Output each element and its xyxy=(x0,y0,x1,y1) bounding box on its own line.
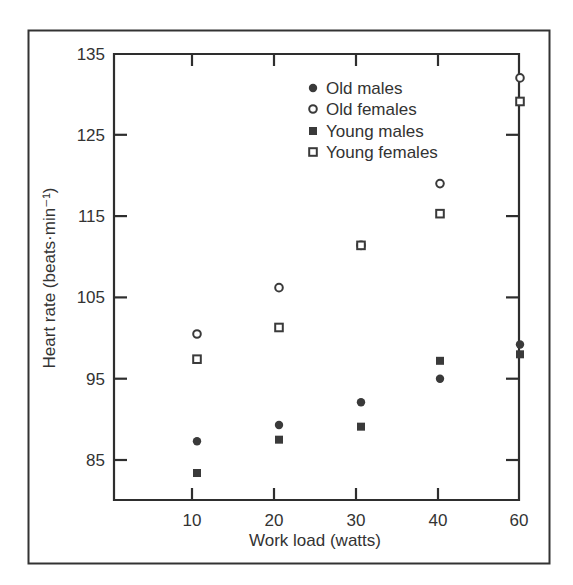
legend-label: Old females xyxy=(326,100,417,119)
legend-label: Young males xyxy=(326,122,424,141)
y-axis-ticks: 8595105115125135 xyxy=(77,45,519,471)
y-tick-label: 125 xyxy=(77,126,105,145)
y-axis-title: Heart rate (beats·min⁻¹) xyxy=(40,188,59,369)
filled-circle-marker xyxy=(275,421,283,429)
plot-area: 8595105115125135 1020304060 xyxy=(77,45,529,531)
legend-label: Young females xyxy=(326,143,438,162)
legend-item: Young females xyxy=(309,143,438,162)
legend-label: Old males xyxy=(326,79,403,98)
filled-square-marker xyxy=(357,423,365,431)
x-tick-label: 10 xyxy=(183,511,202,530)
legend-filled-square-icon xyxy=(309,127,317,135)
outer-frame xyxy=(29,31,550,564)
open-square-marker xyxy=(275,324,283,332)
legend: Old malesOld femalesYoung malesYoung fem… xyxy=(309,79,438,162)
x-tick-label: 30 xyxy=(347,511,366,530)
open-square-marker xyxy=(516,98,524,106)
filled-square-marker xyxy=(516,350,524,358)
filled-circle-marker xyxy=(436,375,444,383)
legend-item: Old females xyxy=(309,100,417,119)
series-young-males xyxy=(193,350,524,477)
y-tick-label: 105 xyxy=(77,288,105,307)
y-tick-label: 135 xyxy=(77,45,105,64)
y-tick-label: 115 xyxy=(78,207,105,226)
open-square-marker xyxy=(436,210,444,218)
open-circle-marker xyxy=(275,284,283,292)
legend-item: Young males xyxy=(309,122,424,141)
filled-square-marker xyxy=(193,469,201,477)
legend-item: Old males xyxy=(309,79,403,98)
x-axis-title: Work load (watts) xyxy=(249,531,381,550)
open-circle-marker xyxy=(516,74,524,82)
open-square-marker xyxy=(193,355,201,363)
legend-filled-circle-icon xyxy=(309,84,317,92)
filled-circle-marker xyxy=(357,398,365,406)
filled-circle-marker xyxy=(193,437,201,445)
open-circle-marker xyxy=(436,180,444,188)
legend-open-square-icon xyxy=(309,148,317,156)
filled-circle-marker xyxy=(516,340,524,348)
x-tick-label: 40 xyxy=(429,511,448,530)
open-circle-marker xyxy=(193,330,201,338)
x-tick-label: 20 xyxy=(265,511,284,530)
y-tick-label: 85 xyxy=(86,451,105,470)
plot-border xyxy=(114,54,519,500)
y-tick-label: 95 xyxy=(86,370,105,389)
scatter-chart: 8595105115125135 1020304060 Old malesOld… xyxy=(0,0,573,585)
x-tick-label: 60 xyxy=(510,511,529,530)
legend-open-circle-icon xyxy=(309,105,317,113)
filled-square-marker xyxy=(436,357,444,365)
open-square-marker xyxy=(357,242,365,250)
filled-square-marker xyxy=(275,436,283,444)
